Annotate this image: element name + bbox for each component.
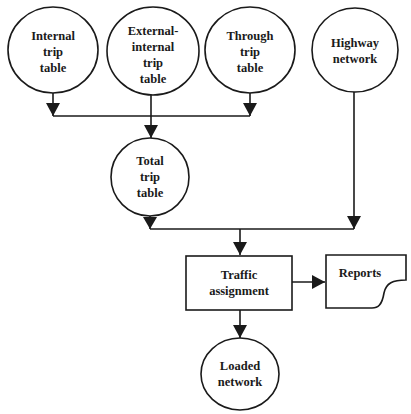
node-loaded-network: Loaded network [201,338,279,410]
node-label: trip [140,170,160,184]
node-label: network [333,52,377,66]
arrowhead-icon [144,125,158,138]
arrowhead-icon [233,242,247,255]
node-label: Reports [339,266,381,280]
node-through-trip-table: Through trip table [205,7,295,93]
node-label: Traffic [221,268,258,282]
arrowhead-icon [233,325,247,338]
node-label: internal [132,40,175,54]
arrowhead-icon [46,103,60,116]
node-label: Loaded [220,359,260,373]
node-external-internal-trip-table: External- internal trip table [107,7,199,95]
node-label: Highway [331,36,380,50]
node-total-trip-table: Total trip table [111,138,189,216]
arrowhead-icon [347,216,361,229]
node-label: table [237,61,264,75]
node-label: trip [240,45,260,59]
node-label: network [218,375,262,389]
node-label: table [40,61,67,75]
node-label: External- [128,24,179,38]
node-label: Total [136,154,164,168]
node-label: trip [143,56,163,70]
node-label: trip [43,45,63,59]
node-reports-document: Reports [326,255,406,308]
arrowhead-icon [143,217,157,229]
node-label: assignment [209,284,270,298]
node-internal-trip-table: Internal trip table [8,7,98,93]
node-highway-network: Highway network [312,8,398,92]
node-label: Internal [31,29,75,43]
node-label: table [137,186,164,200]
arrowhead-icon [243,103,257,116]
flow-diagram: Internal trip table External- internal t… [0,0,411,414]
node-label: table [140,72,167,86]
arrowhead-icon [312,275,325,289]
node-label: Through [226,29,273,43]
node-traffic-assignment: Traffic assignment [186,256,292,310]
